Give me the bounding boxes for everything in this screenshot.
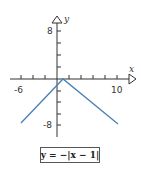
y-axis-arrow-icon — [52, 16, 62, 23]
x-axis-arrow-icon — [129, 74, 136, 84]
y-ticks — [57, 31, 61, 125]
y-tick-label-neg8: -8 — [43, 120, 52, 130]
x-axis-label: x — [129, 64, 134, 74]
function-line — [21, 79, 118, 124]
y-axis-label: y — [63, 14, 70, 24]
x-tick-label-10: 10 — [111, 85, 123, 95]
x-tick-label-neg6: -6 — [14, 85, 23, 95]
x-ticks — [21, 75, 117, 79]
y-tick-label-8: 8 — [47, 26, 53, 36]
equation-label: y = −|x − 1| — [40, 147, 100, 163]
